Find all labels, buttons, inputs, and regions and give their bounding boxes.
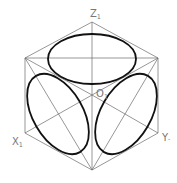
cube-outline bbox=[25, 22, 158, 170]
label-x-axis: X1 bbox=[12, 136, 23, 149]
label-origin: O1 bbox=[96, 88, 108, 101]
right-ellipse bbox=[82, 63, 169, 164]
label-y-axis: Y- bbox=[161, 132, 171, 143]
left-face-diagonal-2 bbox=[25, 95, 92, 133]
isometric-cube-diagram: Z1 O1 X1 Y- bbox=[0, 0, 177, 183]
label-z-axis: Z1 bbox=[90, 8, 101, 21]
